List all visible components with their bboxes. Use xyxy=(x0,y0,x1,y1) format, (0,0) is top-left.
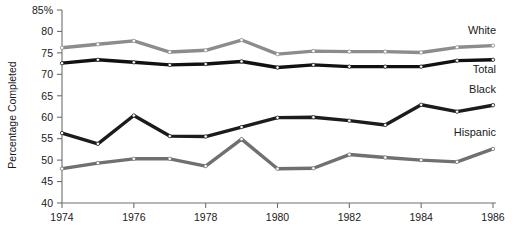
y-tick-label: 60 xyxy=(41,111,53,123)
x-tick-label: 1980 xyxy=(266,211,290,223)
data-point-marker xyxy=(348,65,351,68)
data-point-marker xyxy=(419,65,422,68)
data-point-marker xyxy=(204,164,207,167)
series-layer xyxy=(60,38,494,170)
data-point-marker xyxy=(384,50,387,53)
data-point-marker xyxy=(96,58,99,61)
y-tick-label: 40 xyxy=(41,197,53,209)
data-point-marker xyxy=(168,157,171,160)
data-point-marker xyxy=(348,50,351,53)
series-white xyxy=(60,38,494,56)
series-black xyxy=(60,103,494,145)
data-point-marker xyxy=(384,123,387,126)
series-label-black: Black xyxy=(469,83,496,95)
x-tick-label: 1982 xyxy=(338,211,362,223)
data-point-marker xyxy=(384,65,387,68)
data-point-marker xyxy=(240,38,243,41)
x-tick-label: 1978 xyxy=(194,211,218,223)
data-point-marker xyxy=(348,119,351,122)
data-point-marker xyxy=(60,61,63,64)
data-point-marker xyxy=(491,44,494,47)
data-point-marker xyxy=(455,59,458,62)
x-tick-label: 1974 xyxy=(50,211,74,223)
y-tick-label: 75 xyxy=(41,47,53,59)
y-tick-label: 45 xyxy=(41,175,53,187)
data-point-marker xyxy=(132,39,135,42)
data-point-marker xyxy=(348,153,351,156)
data-point-marker xyxy=(204,135,207,138)
data-point-marker xyxy=(276,116,279,119)
data-point-marker xyxy=(276,66,279,69)
series-total xyxy=(60,58,494,69)
y-axis-title-group: Percentage Completed xyxy=(6,61,18,169)
line-chart: Percentage Completed 4045505560657075808… xyxy=(0,0,512,250)
y-tick-label: 50 xyxy=(41,154,53,166)
data-point-marker xyxy=(419,103,422,106)
series-label-hispanic: Hispanic xyxy=(454,126,497,138)
data-point-marker xyxy=(168,134,171,137)
series-line-hispanic xyxy=(62,139,493,169)
x-tick-label: 1986 xyxy=(481,211,505,223)
data-point-marker xyxy=(312,49,315,52)
y-axis-title: Percentage Completed xyxy=(6,61,18,169)
data-point-marker xyxy=(312,167,315,170)
x-axis-ticks: 1974197619781980198219841986 xyxy=(50,203,505,223)
data-point-marker xyxy=(491,58,494,61)
series-line-black xyxy=(62,105,493,144)
data-point-marker xyxy=(240,137,243,140)
x-tick-label: 1984 xyxy=(409,211,433,223)
data-point-marker xyxy=(132,61,135,64)
chart-container: Percentage Completed 4045505560657075808… xyxy=(0,0,512,250)
data-point-marker xyxy=(455,160,458,163)
data-point-marker xyxy=(312,63,315,66)
data-point-marker xyxy=(455,110,458,113)
y-tick-label: 55 xyxy=(41,132,53,144)
data-point-marker xyxy=(312,116,315,119)
data-point-marker xyxy=(384,156,387,159)
data-point-marker xyxy=(204,62,207,65)
y-tick-label: 85% xyxy=(32,4,53,16)
data-point-marker xyxy=(276,167,279,170)
x-tick-label: 1976 xyxy=(122,211,146,223)
y-tick-label: 70 xyxy=(41,68,53,80)
y-tick-label: 80 xyxy=(41,25,53,37)
series-labels: WhiteTotalBlackHispanic xyxy=(454,24,497,138)
data-point-marker xyxy=(96,161,99,164)
data-point-marker xyxy=(96,142,99,145)
series-label-white: White xyxy=(468,24,496,36)
series-line-white xyxy=(62,40,493,54)
y-tick-label: 65 xyxy=(41,90,53,102)
data-point-marker xyxy=(132,157,135,160)
series-hispanic xyxy=(60,137,494,170)
data-point-marker xyxy=(168,50,171,53)
data-point-marker xyxy=(204,49,207,52)
data-point-marker xyxy=(419,158,422,161)
data-point-marker xyxy=(491,147,494,150)
data-point-marker xyxy=(419,51,422,54)
data-point-marker xyxy=(60,46,63,49)
data-point-marker xyxy=(240,125,243,128)
data-point-marker xyxy=(132,114,135,117)
data-point-marker xyxy=(455,46,458,49)
data-point-marker xyxy=(60,131,63,134)
data-point-marker xyxy=(491,104,494,107)
data-point-marker xyxy=(276,52,279,55)
series-label-total: Total xyxy=(473,63,496,75)
data-point-marker xyxy=(96,43,99,46)
data-point-marker xyxy=(60,167,63,170)
data-point-marker xyxy=(168,63,171,66)
data-point-marker xyxy=(240,60,243,63)
y-axis-ticks: 40455055606570758085% xyxy=(32,4,62,209)
